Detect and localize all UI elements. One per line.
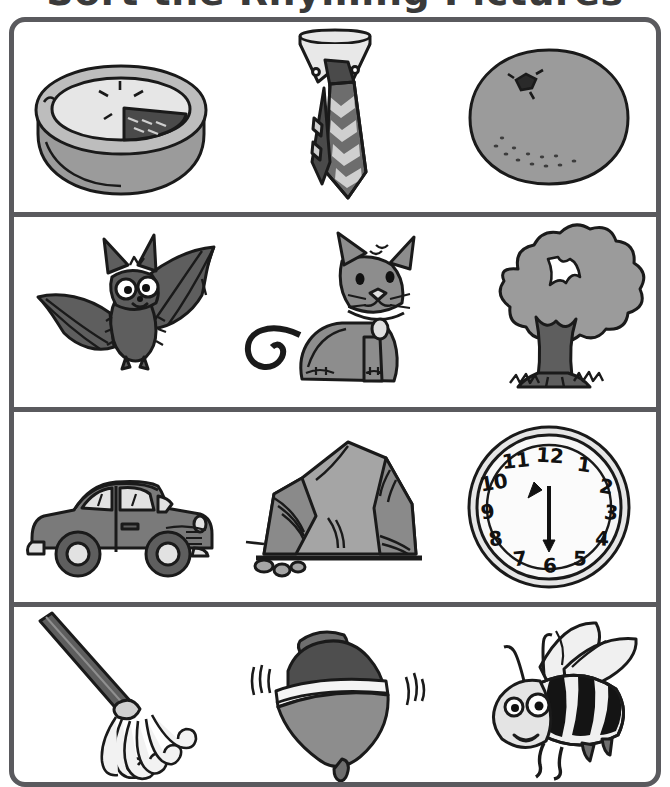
picture-grid: 12 1 2 3 4 5 6 7 8 9 10 11 [9,17,661,787]
tie-illustration [228,22,442,212]
worksheet-title-strip: Sort the Rhyming Pictures [0,0,670,13]
cell-car[interactable] [14,412,228,602]
tree-illustration [442,217,656,407]
cell-bee[interactable] [442,607,656,787]
cell-mop[interactable] [14,607,228,787]
svg-text:6: 6 [543,553,558,577]
grid-row [14,22,656,217]
car-illustration [14,412,228,602]
page-title: Sort the Rhyming Pictures [0,0,670,13]
svg-text:4: 4 [594,526,610,551]
svg-text:12: 12 [535,443,564,469]
cell-tie[interactable] [228,22,442,212]
cell-tree[interactable] [442,217,656,407]
svg-text:11: 11 [501,447,531,474]
cat-illustration [228,217,442,407]
rock-illustration [228,412,442,602]
cell-top[interactable] [228,607,442,787]
bat-illustration [14,217,228,407]
clock-illustration: 12 1 2 3 4 5 6 7 8 9 10 11 [442,412,656,602]
pie-illustration [14,22,228,212]
cell-cat[interactable] [228,217,442,407]
cell-orange[interactable] [442,22,656,212]
orange-illustration [442,22,656,212]
svg-text:7: 7 [512,546,528,571]
svg-text:3: 3 [603,500,619,525]
cell-bat[interactable] [14,217,228,407]
grid-row [14,607,656,787]
grid-row: 12 1 2 3 4 5 6 7 8 9 10 11 [14,412,656,607]
bee-illustration [442,607,656,787]
svg-text:5: 5 [573,546,588,570]
cell-clock[interactable]: 12 1 2 3 4 5 6 7 8 9 10 11 [442,412,656,602]
top-illustration [228,607,442,787]
grid-row [14,217,656,412]
mop-illustration [14,607,228,787]
cell-rock[interactable] [228,412,442,602]
cell-pie[interactable] [14,22,228,212]
